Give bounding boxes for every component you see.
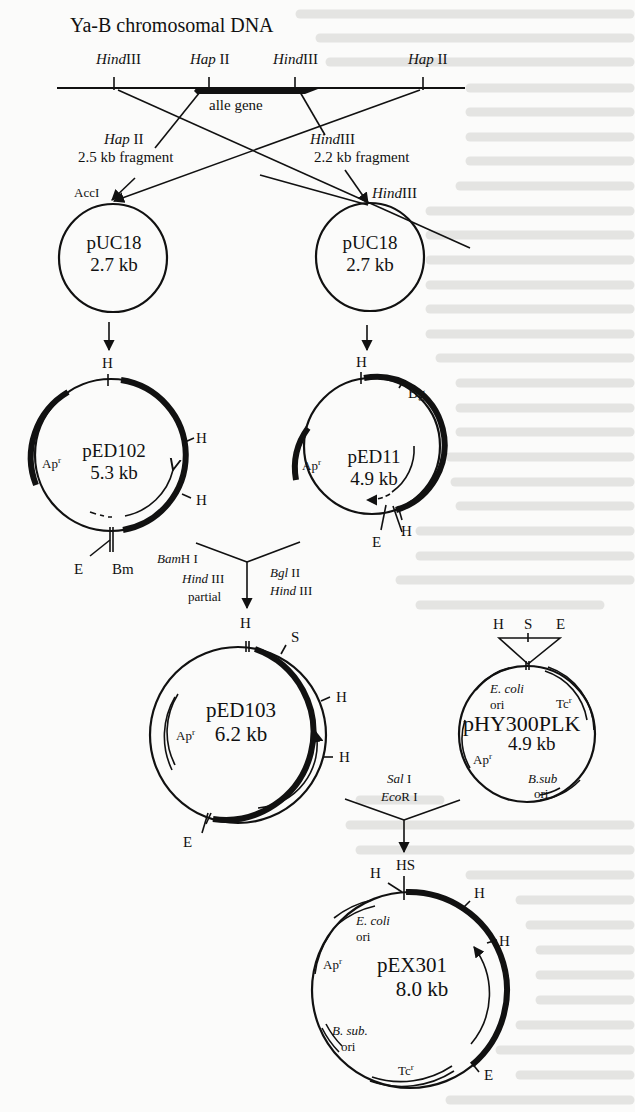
phy-bsub-label: B.sub <box>528 772 557 785</box>
step3-sali: Sal I <box>387 772 411 785</box>
puc18-left-plasmid <box>59 204 167 350</box>
gene-arrow <box>194 87 318 94</box>
ped102-label: pED1025.3 kb <box>72 440 156 484</box>
phy-mcs-e: E <box>556 617 565 632</box>
ped103-site-top: H <box>240 616 251 631</box>
chrom-site-1: HindIII <box>96 52 141 67</box>
pex301-site-h2: H <box>499 934 510 949</box>
ped102-site-bm: Bm <box>112 562 134 577</box>
accl-site-label: AccI <box>74 186 99 199</box>
pex-tcr-label: Tcr <box>398 1063 414 1077</box>
ped103-site-e: E <box>183 835 192 850</box>
phy-mcs-h: H <box>493 617 504 632</box>
ped103-site-h1: H <box>336 690 347 705</box>
phy-bsub-ori: ori <box>534 787 548 800</box>
ped102-site-right1: H <box>196 431 207 446</box>
phy-ecoli-ori: ori <box>490 698 504 711</box>
fragment-lines <box>112 90 470 248</box>
ped11-site-h: H <box>401 524 412 539</box>
step1-bamhi: BamH I <box>157 552 198 565</box>
figure-title: Ya-B chromosomal DNA <box>70 14 274 37</box>
hindiii-site-label: HindIII <box>372 186 417 201</box>
step1-partial: partial <box>188 590 221 603</box>
puc18-right-label: pUC182.7 kb <box>335 232 405 276</box>
left-fragment-enzyme: Hap II <box>104 132 144 147</box>
phy-tcr-label: Tcr <box>556 696 572 710</box>
right-fragment-size: 2.2 kb fragment <box>314 150 409 165</box>
pex301-site-e: E <box>484 1068 493 1083</box>
phy-ampr-label: Apr <box>473 752 492 766</box>
step1-hindiii: Hind III <box>182 572 224 585</box>
ped103-site-s: S <box>291 630 299 645</box>
left-fragment-size: 2.5 kb fragment <box>78 150 173 165</box>
ped11-ampr-label: Apr <box>302 458 321 472</box>
ped11-site-bg: Bg <box>408 386 426 401</box>
ped11-site-top: H <box>356 355 367 370</box>
pex-ecoli-label: E. coli <box>356 914 390 927</box>
pex-ecoli-ori: ori <box>356 930 370 943</box>
puc18-right-plasmid <box>316 203 424 350</box>
diagram-canvas <box>0 0 635 1112</box>
pex301-site-top-h: H <box>370 866 381 881</box>
chrom-site-3: HindIII <box>273 52 318 67</box>
right-fragment-enzyme: HindIII <box>310 132 355 147</box>
phy300plk-name: pHY300PLK <box>463 713 580 735</box>
ped102-site-top: H <box>102 356 113 371</box>
chromosome-map <box>57 77 465 94</box>
chrom-site-4: Hap II <box>408 52 448 67</box>
phy-ecoli-label: E. coli <box>490 682 524 695</box>
pex-ampr-label: Apr <box>323 957 342 971</box>
chrom-site-2: Hap II <box>190 52 230 67</box>
pex301-site-h1: H <box>474 886 485 901</box>
step2-bglii: Bgl II <box>270 566 300 579</box>
ped103-ampr-label: Apr <box>176 728 195 742</box>
ped102-site-e: E <box>74 562 83 577</box>
pex-bsub-ori: ori <box>341 1040 355 1053</box>
pex-bsub-label: B. sub. <box>332 1024 368 1037</box>
gene-label: alle gene <box>209 98 263 113</box>
ped11-label: pED114.9 kb <box>336 446 412 490</box>
pex301-label: pEX3018.0 kb <box>362 953 462 1001</box>
ped103-site-h2: H <box>339 750 350 765</box>
pex301-site-hs: HS <box>396 858 415 873</box>
step2-hindiii: Hind III <box>270 584 312 597</box>
ped102-ampr-label: Apr <box>42 456 61 470</box>
ped102-site-right2: H <box>196 493 207 508</box>
ped103-label: pED1036.2 kb <box>196 698 286 746</box>
phy-mcs-s: S <box>524 617 532 632</box>
step3-ecori: EcoR I <box>381 790 417 803</box>
phy300plk-size: 4.9 kb <box>508 734 556 753</box>
ped11-site-e: E <box>372 535 381 550</box>
puc18-left-label: pUC182.7 kb <box>79 232 149 276</box>
